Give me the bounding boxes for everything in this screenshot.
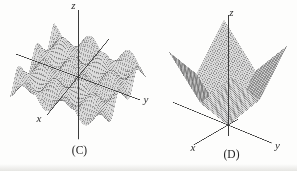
- scan-shadow: [0, 164, 297, 171]
- surface-plots-canvas: [0, 0, 297, 171]
- figure: z x y (C) z x y (D): [0, 0, 297, 171]
